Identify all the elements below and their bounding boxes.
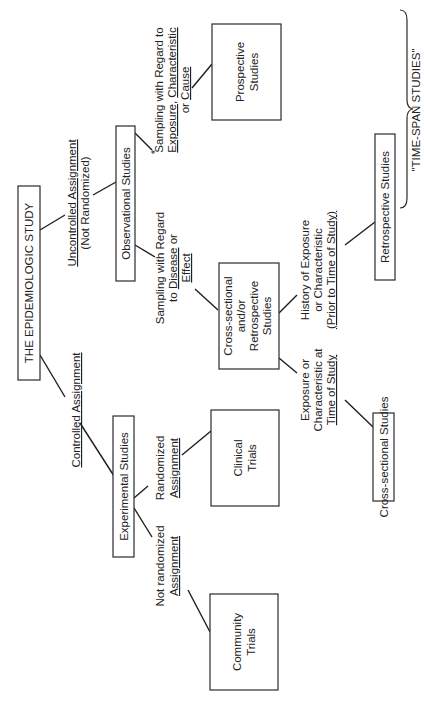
edge-randomized-to-clinical bbox=[182, 431, 211, 455]
edge-history-to-retrospective bbox=[345, 222, 375, 245]
diagram-title: THE EPIDEMIOLOGIC STUDY bbox=[23, 202, 35, 363]
history-line-1: History of Exposure bbox=[299, 220, 311, 320]
not-randomized-text: Not randomized bbox=[154, 525, 166, 606]
community-line-1: Community bbox=[231, 613, 243, 671]
disease-line-1: Sampling with Regard bbox=[154, 212, 166, 325]
effect-word: Effect bbox=[180, 253, 192, 283]
at-time-line-3: Time of Study bbox=[325, 354, 337, 425]
epidemiologic-study-diagram: THE EPIDEMIOLOGIC STUDY Uncontrolled Ass… bbox=[0, 0, 424, 726]
history-of-exposure-label: History of Exposure or Characteristic (P… bbox=[299, 211, 337, 329]
controlled-assignment-label: Controlled Assignment bbox=[70, 352, 82, 468]
uncontrolled-assignment-label: Uncontrolled Assignment (Not Randomized) bbox=[66, 139, 91, 267]
edge-uncontrolled-to-observational bbox=[93, 182, 116, 195]
connectors bbox=[40, 64, 375, 632]
randomized-text: Randomized bbox=[154, 436, 166, 501]
disease-line-2: to Disease or bbox=[167, 234, 179, 302]
not-randomized-assignment-label: Not randomized Assignment bbox=[154, 525, 180, 606]
retrospective-studies-label: Retrospective Studies bbox=[379, 151, 391, 263]
crossretro-line-3: Retrospective bbox=[248, 281, 260, 351]
history-line-2: or Characteristic bbox=[312, 228, 324, 312]
or-word: or bbox=[179, 100, 191, 113]
edge-experimental-to-not-randomized bbox=[134, 508, 152, 537]
at-time-line-2: Characteristic at bbox=[312, 348, 324, 432]
exposure-line-2: Exposure, Characteristic bbox=[166, 27, 178, 153]
observational-studies-label: Observational Studies bbox=[120, 147, 132, 260]
prospective-studies-box bbox=[212, 24, 281, 120]
uncontrolled-assignment-text: Uncontrolled Assignment bbox=[66, 139, 78, 267]
at-time-line-1: Exposure or bbox=[299, 359, 311, 421]
crossretro-line-2: and/or bbox=[235, 300, 247, 333]
or-word: or bbox=[167, 234, 179, 248]
edge-title-to-uncontrolled bbox=[40, 215, 65, 230]
crossretro-line-1: Cross-sectional bbox=[222, 276, 234, 355]
edge-observational-to-disease bbox=[135, 245, 155, 257]
history-line-3: (Prior to Time of Study) bbox=[325, 211, 337, 329]
edge-experimental-to-randomized bbox=[134, 486, 148, 498]
exposure-at-time-label: Exposure or Characteristic at Time of St… bbox=[299, 348, 337, 432]
randomized-assignment-label: Randomized Assignment bbox=[154, 436, 180, 501]
cause-word: Cause bbox=[179, 67, 191, 100]
edge-disease-to-crossretro bbox=[195, 289, 218, 310]
assignment-text: Assignment bbox=[168, 437, 180, 498]
clinical-line-1: Clinical bbox=[232, 439, 244, 476]
clinical-line-2: Trials bbox=[246, 444, 258, 472]
experimental-studies-label: Experimental Studies bbox=[118, 432, 130, 541]
cross-sectional-studies-label: Cross-sectional Studies bbox=[378, 396, 390, 517]
exposure-sampling-label: * Sampling with Regard to Exposure, Char… bbox=[149, 27, 191, 154]
edge-at-time-to-cross-sectional bbox=[345, 400, 373, 427]
edge-crossretro-to-history bbox=[279, 295, 297, 313]
assignment-text: Assignment bbox=[168, 535, 180, 596]
community-line-2: Trials bbox=[245, 628, 257, 656]
community-trials-box bbox=[210, 594, 278, 690]
crossretro-line-4: Studies bbox=[261, 297, 273, 336]
edge-observational-to-exposure bbox=[135, 133, 152, 150]
edge-crossretro-to-at-time bbox=[279, 358, 297, 373]
prospective-line-1: Prospective bbox=[234, 42, 246, 102]
edge-title-to-controlled bbox=[40, 355, 65, 397]
disease-sampling-label: Sampling with Regard to Disease or Effec… bbox=[154, 212, 192, 325]
not-randomized-paren-text: (Not Randomized) bbox=[79, 156, 91, 249]
exposure-line-3: or Cause bbox=[179, 67, 191, 114]
edge-not-randomized-to-community bbox=[188, 590, 210, 632]
disease-word: Disease bbox=[167, 248, 179, 290]
edge-controlled-to-experimental bbox=[80, 423, 114, 476]
exposure-line-1: Sampling with Regard to bbox=[153, 27, 165, 152]
time-span-studies-label: "TIME-SPAN STUDIES" bbox=[410, 49, 422, 172]
edge-exposure-to-prospective bbox=[192, 64, 212, 88]
to-word: to bbox=[167, 289, 179, 302]
prospective-line-2: Studies bbox=[248, 53, 260, 92]
characteristic-word: Characteristic bbox=[166, 27, 178, 98]
exposure-word: Exposure bbox=[166, 104, 178, 153]
clinical-trials-box bbox=[211, 410, 279, 506]
